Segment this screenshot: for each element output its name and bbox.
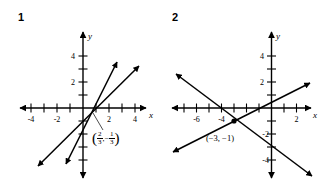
y-axis-label-2: y (275, 31, 280, 41)
y-tick-label-2-neg2: -2 (262, 130, 269, 139)
plot-line-2-falling (176, 74, 312, 176)
figure-panel-2: 2 (160, 0, 320, 187)
y-tick-label-2-pos2: 2 (260, 78, 264, 87)
intersection-point-label-2: (−3, −1) (206, 133, 234, 143)
x-tick-label-1-pos4: 4 (133, 115, 137, 124)
x-tick-label-2-neg6: -6 (193, 115, 200, 124)
x-axis-2 (172, 104, 311, 113)
coordinate-plane-2: x y -6 -4 2 4 2 -2 -4 (−3, −1) (160, 0, 321, 187)
y-tick-label-2-pos4: 4 (260, 52, 264, 61)
x-axis-label-1: x (148, 110, 153, 120)
x-tick-label-1-neg4: -4 (28, 115, 35, 124)
intersection-point-marker-2 (231, 118, 236, 123)
close-paren-1: ) (115, 131, 120, 146)
y-axis-label-1: y (87, 31, 92, 41)
coordinate-plane-1: x y -4 -2 2 4 2 4 (0, 0, 160, 187)
y-axis-1 (79, 32, 88, 178)
x-axis-label-2: x (312, 110, 317, 120)
x-tick-label-2-pos2: 2 (295, 115, 299, 124)
y-tick-label-1-pos2: 2 (71, 78, 75, 87)
x-tick-label-1-pos2: 2 (107, 115, 111, 124)
intersection-point-label-1: (23,−13) (92, 131, 120, 147)
figure-pair: 1 (0, 0, 321, 187)
x-tick-label-2-neg4: -4 (218, 115, 225, 124)
y-tick-label-2-neg4: -4 (262, 156, 269, 165)
x-tick-label-1-neg2: -2 (54, 115, 61, 124)
point-leader-line-1 (93, 113, 103, 130)
y-tick-label-1-pos4: 4 (71, 52, 75, 61)
figure-panel-1: 1 (0, 0, 160, 187)
